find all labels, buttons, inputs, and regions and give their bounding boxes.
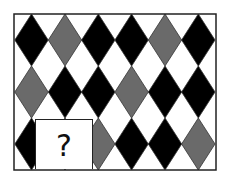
missing-piece-box: ? (35, 119, 93, 169)
question-mark: ? (56, 131, 72, 161)
